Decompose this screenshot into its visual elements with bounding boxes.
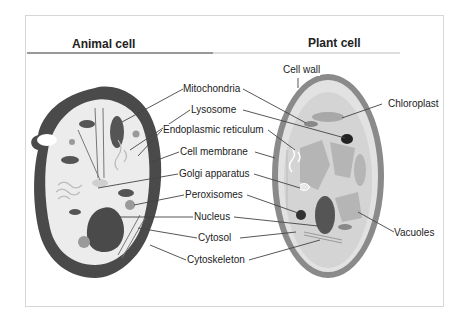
plant-mitochondrion-2 [338,224,352,230]
label-cell-wall: Cell wall [283,64,320,76]
plant-chloroplast [312,112,344,122]
plant-nucleus [315,196,335,234]
plant-vacuole-4 [354,154,366,186]
plant-mitochondrion-1 [304,121,318,127]
label-peroxisomes: Peroxisomes [185,189,243,201]
animal-mitochondrion-3 [61,156,79,164]
animal-cell-title: Animal cell [72,37,135,51]
animal-mitochondrion-4 [118,189,134,197]
animal-lysosome-2 [133,131,140,138]
label-lysosome: Lysosome [191,104,236,116]
animal-lysosome-1 [69,139,75,145]
animal-peroxisome-1 [125,200,135,210]
animal-peroxisome-2 [78,236,90,248]
plant-cell-illustration [272,74,384,278]
plant-peroxisome [296,210,306,220]
plant-lysosome [341,134,353,144]
label-nucleus: Nucleus [194,211,230,223]
animal-notch [37,134,57,146]
label-vacuoles: Vacuoles [394,227,434,239]
animal-mitochondrion-1 [110,116,124,148]
animal-mitochondrion-5 [69,209,81,215]
label-mitochondria: Mitochondria [183,83,240,95]
animal-golgi [92,179,108,187]
animal-mitochondrion-2 [79,120,95,128]
cell-diagram [0,0,466,323]
label-chloroplast: Chloroplast [388,98,439,110]
label-cell-membrane: Cell membrane [180,146,248,158]
label-cytosol: Cytosol [198,232,231,244]
plant-cell-title: Plant cell [308,36,361,50]
label-golgi-apparatus: Golgi apparatus [179,168,250,180]
animal-cell-illustration [31,87,161,278]
label-endoplasmic-reticulum: Endoplasmic reticulum [163,124,264,136]
label-cytoskeleton: Cytoskeleton [187,254,245,266]
